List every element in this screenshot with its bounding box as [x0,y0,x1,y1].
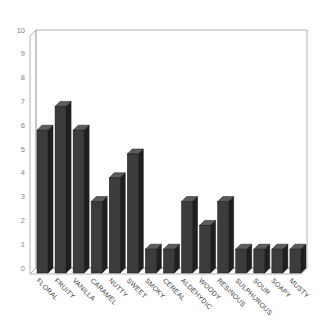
bar-side-face [48,125,53,273]
bar-front-face [145,249,156,273]
bar-front-face [236,249,247,273]
bar-front-face [55,106,66,273]
bar-resinous [218,197,234,273]
bar-vanilla [73,125,89,273]
bar-woody [200,220,216,273]
chart-walls [30,30,307,274]
bar-front-face [37,130,48,273]
category-label-musty: MUSTY [288,277,311,300]
y-tick-label-1: 1 [21,240,25,249]
bar-smoky [145,244,161,273]
bar-nutty [109,173,125,273]
bar-chart-3d: 012345678910 FLORALFRUITYVANILLACARAMELN… [0,0,328,328]
y-tick-label-6: 6 [21,121,25,130]
bar-soapy [272,244,288,273]
bar-front-face [272,249,283,273]
bar-fruity [55,101,71,273]
chart-left-wall [30,30,36,274]
bar-side-face [120,173,125,273]
bar-side-face [193,197,198,273]
y-tick-label-10: 10 [17,26,25,35]
y-tick-label-7: 7 [21,97,25,106]
bar-front-face [290,249,301,273]
bar-musty [290,244,306,273]
chart-bars [37,101,306,273]
bar-front-face [163,249,174,273]
chart-canvas: 012345678910 FLORALFRUITYVANILLACARAMELN… [0,0,328,328]
bar-side-face [229,197,234,273]
x-axis-category-labels: FLORALFRUITYVANILLACARAMELNUTTYSWEETSMOK… [35,277,311,317]
bar-sweet [127,149,143,273]
bar-caramel [91,197,107,273]
bar-sour [254,244,270,273]
bar-front-face [254,249,265,273]
bar-side-face [66,101,71,273]
y-axis-tick-labels: 012345678910 [17,26,25,273]
y-tick-label-0: 0 [21,264,25,273]
y-tick-label-8: 8 [21,73,25,82]
y-tick-label-3: 3 [21,192,25,201]
bar-front-face [91,202,102,273]
bar-front-face [73,130,84,273]
y-tick-label-5: 5 [21,145,25,154]
bar-aldehydic [182,197,198,273]
y-tick-label-4: 4 [21,168,25,177]
y-tick-label-9: 9 [21,49,25,58]
bar-cereal [163,244,179,273]
bar-front-face [109,178,120,273]
bar-side-face [138,149,143,273]
bar-sulphurous [236,244,252,273]
bar-side-face [211,220,216,273]
bar-side-face [84,125,89,273]
bar-front-face [218,202,229,273]
bar-floral [37,125,53,273]
bar-front-face [182,202,193,273]
bar-front-face [127,154,138,273]
y-tick-label-2: 2 [21,216,25,225]
bar-front-face [200,225,211,273]
bar-side-face [102,197,107,273]
